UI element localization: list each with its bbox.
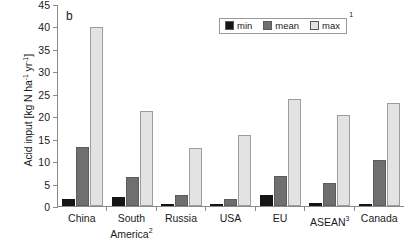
- y-tick-label-5: 5: [44, 179, 50, 191]
- bar-max-south-america: [140, 111, 153, 206]
- bar-min-russia: [161, 204, 174, 206]
- y-axis-title: Acid input [kg N ha-1 yr-1]: [22, 25, 35, 195]
- bar-max-eu: [288, 99, 301, 206]
- bar-mean-eu: [274, 176, 287, 206]
- bar-min-china: [62, 199, 75, 206]
- x-tick-separator-2: [205, 206, 206, 211]
- y-axis-title-sup-1: -1: [22, 74, 29, 80]
- y-tick-label-40: 40: [38, 21, 50, 33]
- x-tick-separator-3: [255, 206, 256, 211]
- x-label-china: China: [57, 213, 107, 240]
- y-axis-title-mid: yr: [22, 63, 34, 74]
- x-label-line-1: EU: [273, 212, 288, 224]
- bar-max-asean: [337, 115, 350, 206]
- y-tick-label-15: 15: [38, 134, 50, 146]
- x-label-line-1: China: [68, 212, 95, 224]
- bar-group-china: [58, 5, 107, 206]
- x-label-superscript: 2: [149, 227, 153, 234]
- y-tick-0: 0: [53, 207, 58, 208]
- bar-max-russia: [189, 148, 202, 206]
- x-label-russia: Russia: [156, 213, 206, 240]
- x-label-south-america: SouthAmerica2: [107, 213, 157, 240]
- y-tick-label-30: 30: [38, 66, 50, 78]
- bar-group-eu: [256, 5, 305, 206]
- y-tick-label-25: 25: [38, 89, 50, 101]
- x-label-superscript: 3: [346, 215, 350, 222]
- y-tick-label-0: 0: [44, 201, 50, 213]
- x-label-line-1: Russia: [165, 212, 197, 224]
- bar-min-eu: [260, 195, 273, 206]
- y-tick-label-45: 45: [38, 0, 50, 11]
- x-label-line-1: USA: [220, 212, 242, 224]
- y-axis-title-sup-2: -1: [22, 57, 29, 63]
- bar-mean-canada: [373, 160, 386, 206]
- bar-min-south-america: [112, 197, 125, 206]
- plot-area: b 051015202530354045 min mean max 1: [57, 5, 404, 207]
- bar-mean-asean: [323, 183, 336, 206]
- x-label-eu: EU: [255, 213, 305, 240]
- bar-min-asean: [309, 203, 322, 206]
- y-axis-title-end: ]: [22, 54, 34, 57]
- bar-mean-south-america: [126, 177, 139, 206]
- bar-mean-usa: [224, 199, 237, 206]
- x-label-usa: USA: [206, 213, 256, 240]
- x-tick-separator-0: [106, 206, 107, 211]
- y-axis-title-main: Acid input [kg N ha: [22, 80, 34, 166]
- y-tick-label-20: 20: [38, 111, 50, 123]
- bar-mean-china: [76, 147, 89, 206]
- bar-group-russia: [157, 5, 206, 206]
- x-label-line-1: South: [107, 213, 157, 225]
- x-label-line-1: ASEAN: [310, 216, 346, 228]
- x-tick-separator-5: [354, 206, 355, 211]
- x-label-line-1: Canada: [361, 212, 398, 224]
- bar-max-canada: [387, 103, 400, 206]
- bar-mean-russia: [175, 195, 188, 206]
- y-tick-label-10: 10: [38, 156, 50, 168]
- bar-min-usa: [210, 204, 223, 206]
- bar-max-usa: [238, 135, 251, 206]
- bar-group-south-america: [107, 5, 156, 206]
- x-tick-separator-4: [304, 206, 305, 211]
- acid-input-bar-chart: Acid input [kg N ha-1 yr-1] b 0510152025…: [0, 0, 408, 250]
- bar-groups: [58, 5, 404, 206]
- x-label-canada: Canada: [354, 213, 404, 240]
- bar-group-asean: [305, 5, 354, 206]
- bar-group-usa: [206, 5, 255, 206]
- x-tick-separator-1: [156, 206, 157, 211]
- bar-group-canada: [355, 5, 404, 206]
- x-axis-labels: ChinaSouthAmerica2RussiaUSAEUASEAN3Canad…: [57, 213, 404, 240]
- x-label-line-2: America2: [107, 225, 157, 240]
- bar-min-canada: [359, 204, 372, 206]
- y-tick-label-35: 35: [38, 44, 50, 56]
- bar-max-china: [90, 27, 103, 206]
- x-label-asean: ASEAN3: [305, 213, 355, 240]
